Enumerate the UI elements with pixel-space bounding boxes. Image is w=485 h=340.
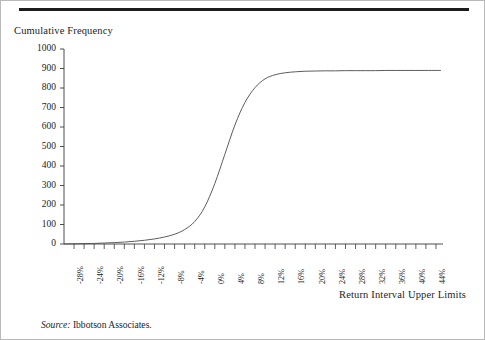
x-tick-label: 0% — [218, 273, 226, 284]
x-axis-title: Return Interval Upper Limits — [339, 289, 466, 300]
x-axis-ticks — [74, 244, 436, 249]
source-value: Ibbotson Associates. — [70, 319, 151, 330]
y-tick-label: 100 — [22, 220, 56, 230]
x-tick-label: 44% — [439, 269, 447, 284]
y-tick-label: 600 — [22, 122, 56, 132]
x-tick-label: -24% — [97, 266, 105, 284]
y-tick-label: 900 — [22, 64, 56, 74]
y-tick-label: 300 — [22, 181, 56, 191]
source-label: Source: — [41, 319, 70, 330]
x-tick-label: 32% — [379, 269, 387, 284]
x-tick-label: 4% — [238, 273, 246, 284]
y-tick-label: 400 — [22, 161, 56, 171]
x-tick-label: -4% — [198, 270, 206, 284]
x-tick-label: 8% — [258, 273, 266, 284]
x-tick-label: 40% — [419, 269, 427, 284]
y-tick-label: 1000 — [22, 44, 56, 54]
figure-container: Cumulative Frequency 0100200300400500600… — [0, 0, 485, 340]
source-note: Source: Ibbotson Associates. — [41, 319, 152, 330]
x-tick-label: 24% — [339, 269, 347, 284]
y-tick-label: 500 — [22, 142, 56, 152]
axis-lines — [64, 49, 443, 244]
y-tick-label: 200 — [22, 200, 56, 210]
cumulative-frequency-curve — [64, 70, 441, 244]
x-tick-label: 28% — [359, 269, 367, 284]
y-tick-label: 0 — [22, 239, 56, 249]
x-tick-label: -8% — [178, 270, 186, 284]
y-tick-label: 800 — [22, 83, 56, 93]
y-axis-ticks — [60, 49, 64, 244]
x-tick-label: -20% — [117, 266, 125, 284]
x-tick-label: 20% — [319, 269, 327, 284]
x-tick-label: -12% — [158, 266, 166, 284]
x-tick-label: -28% — [77, 266, 85, 284]
y-tick-label: 700 — [22, 103, 56, 113]
x-tick-label: 12% — [278, 269, 286, 284]
x-tick-label: -16% — [138, 266, 146, 284]
x-tick-label: 36% — [399, 269, 407, 284]
x-tick-label: 16% — [298, 269, 306, 284]
